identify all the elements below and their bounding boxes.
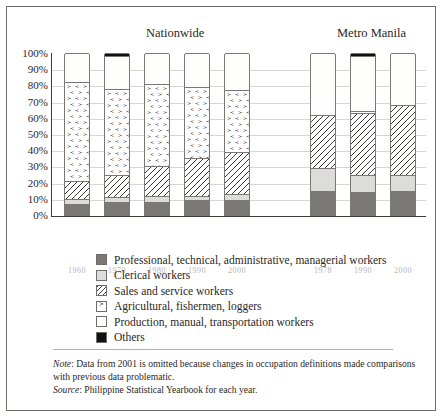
chevron-icon: ≻ <box>123 91 127 96</box>
chevron-icon: ≺ <box>75 108 79 113</box>
bar-segment-agri: ≻≺≻ <box>351 111 375 113</box>
chevron-icon: ≺ <box>195 101 199 106</box>
note-line-1: Note: Data from 2001 is omitted because … <box>53 357 403 370</box>
stacked-bar-nationwide-1990[interactable]: ≻≺≻≺≻≺≻≺≻≺≻≺≻≺≻≺≻≺≻≺≻≺≻≺≻≺≻≺≻≺≻≺≻≺≻≺ <box>184 54 210 216</box>
note-text-2: with previous data problematic. <box>53 371 175 382</box>
stacked-bar-nationwide-1960[interactable]: ≻≺≻≺≻≺≻≺≻≺≻≺≻≺≻≺≻≺≻≺≻≺≻≺≻≺≻≺≻≺≻≺≻≺≻≺≻≺≻≺… <box>64 54 90 216</box>
chevron-icon: ≺ <box>75 84 79 89</box>
legend-item-prof: Professional, technical, administrative,… <box>96 252 386 268</box>
chevron-icon: ≺ <box>166 104 169 109</box>
legend-label: Others <box>114 331 145 343</box>
y-axis-tick-label: 30% <box>28 161 48 173</box>
chevron-icon: ≻ <box>67 132 71 137</box>
chevron-icon: ≺ <box>126 169 129 174</box>
chevron-icon: ≺ <box>230 98 234 103</box>
chevron-icon: ≻ <box>163 86 167 91</box>
chevron-icon: ≻ <box>163 146 167 151</box>
chevron-icon: ≺ <box>115 103 119 108</box>
bar-segment-prof <box>65 204 89 215</box>
y-axis-tick-label: 10% <box>28 193 48 205</box>
chevron-icon: ≻ <box>78 138 82 143</box>
bar-segment-oth <box>105 53 129 56</box>
chevron-icon: ≺ <box>166 128 169 133</box>
bar-segment-prof <box>351 192 375 215</box>
chevron-icon: ≻ <box>107 91 111 96</box>
chevron-icon: ≻ <box>107 115 111 120</box>
chevron-icon: ≺ <box>235 128 239 133</box>
chevron-icon: ≻ <box>203 89 207 94</box>
legend-swatch-black-solid-icon <box>96 332 107 343</box>
chevron-icon: ≻ <box>83 120 87 125</box>
bar-segment-sales <box>311 115 335 168</box>
stacked-bar-nationwide-2000[interactable]: ≻≺≻≺≻≺≻≺≻≺≻≺≻≺≻≺≻≺≻≺≻≺≻≺≻≺≻≺≻≺ <box>224 54 250 216</box>
chevron-icon: ≺ <box>75 156 79 161</box>
chevron-icon: ≺ <box>166 164 169 167</box>
chevron-icon: ≻ <box>123 127 127 132</box>
stacked-bar-nationwide-1970[interactable]: ≻≺≻≺≻≺≻≺≻≺≻≺≻≺≻≺≻≺≻≺≻≺≻≺≻≺≻≺≻≺≻≺≻≺≻≺≻≺≻≺… <box>104 54 130 216</box>
chevron-icon: ≻ <box>123 115 127 120</box>
chevron-icon: ≺ <box>150 152 154 157</box>
chevron-icon: ≻ <box>78 150 82 155</box>
chevron-icon: ≺ <box>230 110 234 115</box>
chevron-icon: ≻ <box>187 125 191 130</box>
chevron-icon: ≻ <box>118 121 122 126</box>
chevron-icon: ≻ <box>67 96 71 101</box>
chevron-icon: ≺ <box>206 107 209 112</box>
chevron-icon: ≺ <box>126 109 129 114</box>
chevron-icon: ≻ <box>118 157 122 162</box>
chevron-icon: ≻ <box>78 102 82 107</box>
chevron-icon: ≻ <box>163 134 167 139</box>
stacked-bar-metro-manila-2000[interactable] <box>390 54 416 216</box>
bar-segment-prod <box>65 53 89 82</box>
chevron-icon: ≻ <box>107 139 111 144</box>
chevron-icon: ≻ <box>227 128 231 133</box>
chevron-icon: ≻ <box>243 128 247 133</box>
chart-legend: Professional, technical, administrative,… <box>96 252 386 345</box>
chevron-icon: ≺ <box>110 121 114 126</box>
chevron-icon: ≺ <box>190 131 194 136</box>
bar-segment-cler <box>391 175 415 191</box>
chevron-icon: ≺ <box>235 92 239 97</box>
chevron-icon: ≺ <box>126 157 129 162</box>
chevron-icon: ≺ <box>86 114 89 119</box>
chevron-icon: ≻ <box>123 139 127 144</box>
chevron-icon: ≻ <box>187 113 191 118</box>
legend-label: Sales and service workers <box>114 285 233 297</box>
stacked-bar-metro-manila-1990[interactable]: ≻≺≻ <box>350 54 376 216</box>
chevron-icon: ≺ <box>150 104 154 109</box>
chevron-icon: ≻ <box>158 116 162 121</box>
chevron-icon: ≻ <box>118 97 122 102</box>
bar-segment-sales <box>391 105 415 175</box>
legend-item-prod: Production, manual, transportation worke… <box>96 314 386 330</box>
chevron-icon: ≻ <box>83 156 87 161</box>
chevron-icon: ≻ <box>227 104 231 109</box>
chevron-icon: ≻ <box>67 144 71 149</box>
chevron-icon: ≻ <box>78 90 82 95</box>
chevron-icon: ≻ <box>83 108 87 113</box>
chevron-icon: ≺ <box>206 131 209 136</box>
bar-segment-cler <box>105 197 129 202</box>
chevron-icon: ≻ <box>163 110 167 115</box>
stacked-bar-nationwide-1980[interactable]: ≻≺≻≺≻≺≻≺≻≺≻≺≻≺≻≺≻≺≻≺≻≺≻≺≻≺≻≺≻≺≻≺≻≺≻≺≻≺≻≺… <box>144 54 170 216</box>
chevron-icon: ≺ <box>110 97 114 102</box>
chevron-icon: ≺ <box>115 163 119 168</box>
bar-segment-cler <box>225 194 249 200</box>
bar-segment-sales <box>185 158 209 195</box>
stacked-bar-plot-area: 100%90%80%70%60%50%40%30%20%10%0%≻≺≻≺≻≺≻… <box>52 54 426 216</box>
legend-swatch-white-empty-icon <box>96 316 107 327</box>
bar-segment-agri: ≻≺≻≺≻≺≻≺≻≺≻≺≻≺≻≺≻≺≻≺≻≺≻≺≻≺≻≺≻≺ <box>225 90 249 152</box>
x-axis-tick-label: 2000 <box>380 266 426 275</box>
stacked-bar-metro-manila-1978[interactable] <box>310 54 336 216</box>
chevron-icon: ≻ <box>158 128 162 133</box>
gridline: 0% <box>52 216 426 217</box>
legend-swatch-dark-gray-solid-icon <box>96 254 107 265</box>
chevron-icon: ≻ <box>227 116 231 121</box>
y-axis-tick-label: 40% <box>28 145 48 157</box>
chevron-icon: ≺ <box>86 138 89 143</box>
chevron-icon: ≻ <box>147 158 151 163</box>
bar-segment-sales <box>351 113 375 175</box>
chevron-icon: ≺ <box>166 92 169 97</box>
panel-title-nationwide: Nationwide <box>146 26 204 41</box>
chevron-icon: ≺ <box>155 158 159 163</box>
bar-segment-prof <box>185 200 209 215</box>
